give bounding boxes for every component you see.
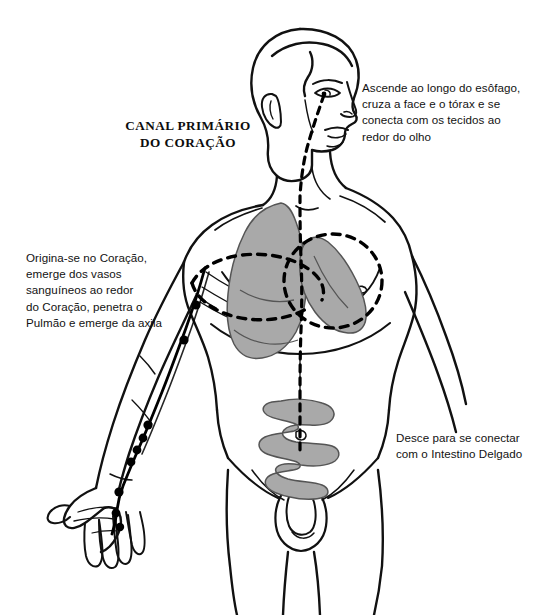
annotation-esophagus: Ascende ao longo do esôfago, cruza a fac…	[362, 80, 540, 145]
acupoint-dot	[127, 458, 136, 467]
annotation-intestine: Desce para se conectar com o Intestino D…	[396, 430, 542, 462]
acupoint-dot	[116, 523, 124, 531]
acupoint-dot	[139, 434, 148, 443]
dashed-path-endpoint-eye	[322, 92, 327, 97]
acupoint-dot	[179, 335, 188, 344]
annotation-heart-origin: Origina-se no Coração, emerge dos vasos …	[26, 250, 202, 331]
acupoint-dot	[112, 509, 121, 518]
acupoint-dot	[114, 487, 123, 496]
acupoint-dot	[143, 420, 152, 429]
page-title: CANAL PRIMÁRIO DO CORAÇÃO	[108, 118, 268, 151]
acupoint-dot	[133, 446, 142, 455]
